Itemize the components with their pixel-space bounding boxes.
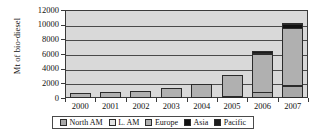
bar-segment[interactable] bbox=[130, 91, 151, 98]
legend-swatch-icon bbox=[184, 119, 191, 126]
y-tick-label: 8000 bbox=[25, 35, 59, 44]
bar-stack[interactable] bbox=[252, 51, 273, 98]
x-tick-label: 2002 bbox=[124, 101, 158, 111]
y-tick-label: 0 bbox=[25, 94, 59, 103]
bar-segment[interactable] bbox=[161, 88, 182, 98]
legend-label: Asia bbox=[194, 119, 209, 127]
x-tick-label: 2007 bbox=[276, 101, 310, 111]
legend-swatch-icon bbox=[214, 119, 221, 126]
bar-group bbox=[95, 10, 125, 98]
x-tick-label: 2001 bbox=[94, 101, 128, 111]
bar-stack[interactable] bbox=[70, 93, 91, 98]
bar-group bbox=[187, 10, 217, 98]
bar-group bbox=[65, 10, 95, 98]
y-tick-label: 2000 bbox=[25, 79, 59, 88]
bar-group bbox=[217, 10, 247, 98]
bar-segment[interactable] bbox=[282, 28, 303, 85]
bars-layer bbox=[65, 10, 308, 98]
bar-stack[interactable] bbox=[191, 84, 212, 98]
bar-stack[interactable] bbox=[222, 75, 243, 98]
bar-stack[interactable] bbox=[282, 23, 303, 98]
y-tick-label: 10000 bbox=[25, 20, 59, 29]
legend-item[interactable]: North AM bbox=[60, 119, 103, 127]
legend-swatch-icon bbox=[109, 119, 116, 126]
bar-group bbox=[278, 10, 308, 98]
bar-segment[interactable] bbox=[191, 84, 212, 98]
bar-group bbox=[156, 10, 186, 98]
y-tick-label: 6000 bbox=[25, 50, 59, 59]
legend-label: North AM bbox=[70, 119, 103, 127]
legend-label: L. AM bbox=[118, 119, 139, 127]
bar-segment[interactable] bbox=[282, 86, 303, 98]
legend-item[interactable]: L. AM bbox=[109, 119, 140, 127]
y-tick-label: 12000 bbox=[25, 6, 59, 15]
bar-stack[interactable] bbox=[100, 92, 121, 98]
x-tick-label: 2000 bbox=[63, 101, 97, 111]
x-tick-label: 2003 bbox=[154, 101, 188, 111]
bar-segment[interactable] bbox=[222, 96, 243, 98]
bar-group bbox=[247, 10, 277, 98]
legend-label: Europe bbox=[155, 119, 178, 127]
bar-segment[interactable] bbox=[252, 54, 273, 92]
bar-stack[interactable] bbox=[161, 88, 182, 98]
y-axis-title: Mt of bio-diesel bbox=[12, 0, 22, 94]
legend-item[interactable]: Pacific bbox=[214, 119, 246, 127]
bar-group bbox=[126, 10, 156, 98]
bar-stack[interactable] bbox=[130, 91, 151, 98]
bar-segment[interactable] bbox=[70, 93, 91, 98]
legend-swatch-icon bbox=[60, 119, 67, 126]
bar-segment[interactable] bbox=[222, 75, 243, 96]
legend-swatch-icon bbox=[145, 119, 152, 126]
legend-item[interactable]: Europe bbox=[145, 119, 178, 127]
bio-diesel-stacked-bar-chart: Mt of bio-diesel 02000400060008000100001… bbox=[0, 0, 319, 133]
y-tick-label: 4000 bbox=[25, 64, 59, 73]
bar-segment[interactable] bbox=[252, 92, 273, 98]
chart-legend: North AML. AMEuropeAsiaPacific bbox=[52, 116, 254, 129]
x-tick-label: 2004 bbox=[185, 101, 219, 111]
bar-segment[interactable] bbox=[100, 92, 121, 98]
legend-label: Pacific bbox=[224, 119, 246, 127]
legend-item[interactable]: Asia bbox=[184, 119, 208, 127]
x-tick-label: 2006 bbox=[245, 101, 279, 111]
x-tick-label: 2005 bbox=[215, 101, 249, 111]
